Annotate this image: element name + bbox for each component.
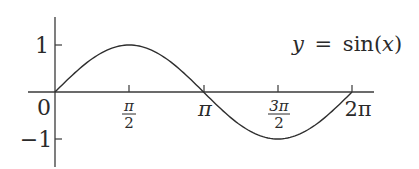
annotation-x: x (382, 32, 394, 56)
y-tick-label-minus-1: −1 (20, 127, 52, 152)
annotation-open: ( (374, 32, 382, 56)
annotation-close: ) (394, 32, 402, 56)
function-annotation: y = sin(x) (291, 32, 402, 56)
x-tick-label-pi-over-2-den: 2 (124, 114, 134, 132)
annotation-y: y (291, 32, 305, 56)
x-tick-label-3pi-over-2-num: 3π (269, 97, 290, 115)
x-tick-label-pi: π (197, 97, 213, 121)
x-tick-label-0: 0 (37, 95, 51, 120)
x-tick-label-pi-over-2-num: π (123, 97, 135, 115)
annotation-fn: sin (343, 32, 374, 56)
y-tick-label-1: 1 (35, 33, 49, 58)
x-tick-label-3pi-over-2-den: 2 (274, 114, 284, 132)
x-tick-label-2pi: 2π (344, 97, 371, 121)
annotation-equals: = (315, 32, 333, 56)
sine-chart: 1 −1 0 π 2 π 3π 2 2π y = sin(x) (0, 0, 419, 169)
